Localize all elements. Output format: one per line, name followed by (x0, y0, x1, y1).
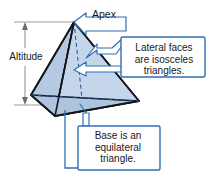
pyramid-diagram-svg (0, 0, 207, 174)
lateral-callout-box (121, 37, 205, 77)
altitude-arrowhead-bottom (22, 97, 28, 105)
altitude-arrowhead-top (22, 22, 28, 30)
base-callout (65, 104, 160, 170)
base-callout-box (78, 126, 160, 170)
geometry-figure: Apex Altitude Lateral faces are isoscele… (0, 0, 207, 174)
